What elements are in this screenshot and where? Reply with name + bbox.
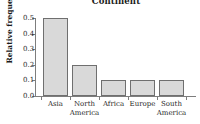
y-axis-line xyxy=(35,18,36,96)
chart-title: Continent xyxy=(36,0,196,6)
x-category-label-line2: America xyxy=(142,109,200,118)
bar xyxy=(72,65,97,96)
y-tick-label: 0.0 xyxy=(23,92,29,100)
x-axis-line xyxy=(35,96,196,97)
y-tick-label: 0.3 xyxy=(23,45,29,53)
x-category-label-line1: South xyxy=(161,100,182,108)
bar-chart-figure: Continent Relative frequency 0.00.10.20.… xyxy=(0,0,199,124)
plot-area: 0.00.10.20.30.40.5 xyxy=(38,18,196,96)
bar xyxy=(130,80,155,96)
bar xyxy=(43,18,68,96)
y-tick-label: 0.5 xyxy=(23,14,29,22)
y-tick-label: 0.1 xyxy=(23,76,29,84)
y-axis-title: Relative frequency xyxy=(5,0,14,64)
bar xyxy=(159,80,184,96)
bar xyxy=(101,80,126,96)
x-category-label: SouthAmerica xyxy=(142,100,200,118)
y-tick-label: 0.4 xyxy=(23,29,29,37)
x-category-label-line2: America xyxy=(55,109,115,118)
y-tick-label: 0.2 xyxy=(23,61,29,69)
